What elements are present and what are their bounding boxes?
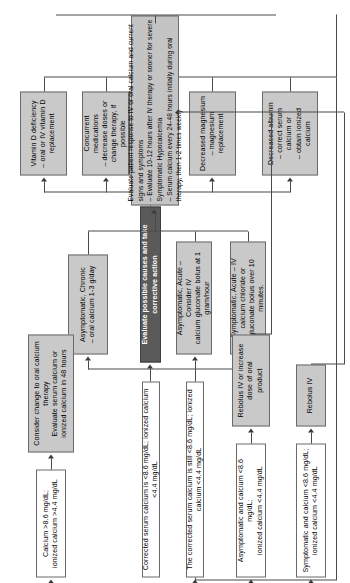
connector-asym-to-action (251, 432, 252, 443)
connector-therapy-merge-vertical (88, 230, 248, 231)
connector-merge-to-eval (155, 211, 156, 231)
arrow-into-stilllow (192, 579, 198, 583)
connector-bus-to-asym-acute (195, 360, 196, 369)
connector-stilllow-feed (195, 579, 336, 580)
connector-bus-to-albumin (290, 181, 291, 192)
arrow-to-outcome-symptomatic (308, 579, 314, 583)
connector-feedback-rebolus-h2 (344, 112, 345, 364)
node-action-change-oral: Consider change to oral calcium therapy … (28, 334, 74, 452)
connector-bus-to-meds (106, 181, 107, 192)
arrow-to-asym-acute (192, 356, 198, 360)
connector-albumin-merge (290, 77, 291, 91)
node-cause-medications: Concurrent medications – decrease doses … (82, 91, 129, 175)
node-asymptomatic-acute: Asymptomatic, Acute – Consider IV calciu… (176, 241, 212, 354)
connector-feedback-up (179, 111, 344, 112)
flowchart-stage: Corrected serum calcium is <8.6 mg/dL; i… (0, 0, 350, 583)
node-action-rebolus-increase: Rebolus IV or increase dose of oral prod… (232, 334, 270, 426)
connector-merge-down (290, 76, 336, 77)
connector-merge-to-stilllow-top (336, 14, 337, 77)
connector-therapy-bus-vertical (88, 368, 248, 369)
arrow-to-meds (103, 177, 109, 181)
flowchart-canvas: Corrected serum calcium is <8.6 mg/dL; i… (0, 0, 350, 583)
arrow-into-eval-response (151, 209, 157, 213)
arrow-to-action-change-oral (48, 454, 54, 458)
connector-feedback-increase-v (251, 333, 271, 334)
node-still-low: The corrected serum calcium is still <8.… (186, 381, 204, 577)
arrow-to-albumin (287, 177, 293, 181)
connector-normal-to-action (51, 458, 52, 469)
node-start: Corrected serum calcium is <8.6 mg/dL; i… (142, 381, 160, 577)
node-evaluate-response: Evaluate patient response to IV or oral … (131, 15, 179, 205)
arrow-feedback-into-eval (175, 109, 179, 115)
node-cause-magnesium: Decreased magnesium – magnesium replacem… (189, 91, 236, 175)
connector-feedback-increase-h (271, 112, 272, 334)
connector-stilllow-bus (195, 369, 196, 381)
arrow-to-action-rebolus-increase (248, 428, 254, 432)
connector-bus-to-vitd (44, 181, 45, 192)
arrow-to-outcome-asymptomatic (248, 579, 254, 583)
arrow-to-vitd (41, 177, 47, 181)
connector-asym-acute-merge (195, 231, 196, 241)
connector-sym-to-action (311, 432, 312, 443)
node-cause-vitamin-d: Vitamin D deficiency – oral or IV vitami… (20, 91, 67, 175)
arrow-to-outcome-normal (48, 579, 54, 583)
connector-start-to-evaluate (150, 368, 151, 381)
connector-bus-to-magnesium (212, 181, 213, 192)
node-evaluate-causes: Evaluate possible causes and take correc… (140, 206, 161, 362)
connector-feedback-rebolus-v (311, 363, 344, 364)
node-asymptomatic-chronic: Asymptomatic, Chronic – oral calcium 1-3… (68, 254, 108, 354)
arrow-start-to-evaluate (147, 364, 153, 368)
node-outcome-asymptomatic: Asymptomatic and calcium <8.6 mg/dL; ion… (236, 443, 266, 577)
connector-sym-acute-merge (248, 231, 249, 241)
connector-meds-merge (106, 77, 107, 91)
node-outcome-normal: Calcium >8.6 mg/dL; ionized calcium >4.4… (36, 469, 66, 577)
arrow-to-action-rebolus (308, 428, 314, 432)
connector-stilllow-feed-h (336, 77, 337, 580)
connector-eval-to-outbus (155, 15, 156, 23)
connector-outcome-bus-vertical (56, 14, 276, 15)
node-outcome-symptomatic: Symptomatic and calcium <8.6 mg/dL; ioni… (296, 443, 326, 577)
connector-magnesium-merge (212, 77, 213, 91)
connector-chronic-merge (88, 231, 89, 254)
arrow-to-magnesium (209, 177, 215, 181)
arrow-to-chronic (85, 356, 91, 360)
node-action-rebolus: Rebolus IV (296, 364, 326, 426)
connector-bus-to-chronic (88, 360, 89, 369)
connector-vitd-merge (44, 77, 45, 91)
